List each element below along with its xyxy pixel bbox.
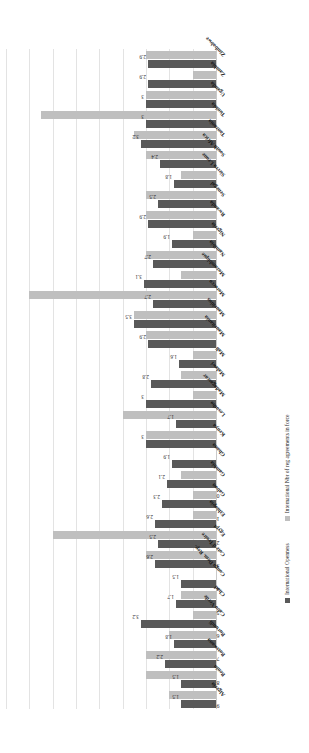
bar-openness [148,60,216,68]
bar-openness [148,80,216,88]
bar-value-label: 2.7 [144,254,151,260]
bar-value-label: 2.5 [149,194,156,200]
category-axis: AlgeriaBeninBotswanaBurundiCabo VerdeCha… [220,49,304,709]
bar-openness [146,120,216,128]
bar-openness [144,280,216,288]
bar-value-label: 3 [141,114,144,120]
bar-value-label: 1.7 [168,414,175,420]
bar-value-label: 3.2 [133,134,140,140]
legend-item: International Nbr of reg agreements in f… [284,414,290,521]
gridline [53,49,54,709]
bar-openness [181,700,216,708]
bar-value-label: 1.5 [172,674,179,680]
bar-agreements [146,91,216,99]
bar-value-label: 1.8 [165,634,172,640]
bar-value-label: 1.9 [163,234,170,240]
gridline [6,49,7,709]
bar-value-label: 2.7 [144,294,151,300]
bar-agreements [146,431,216,439]
legend-swatch-icon [285,516,290,521]
bar-value-label: 2.9 [140,214,147,220]
bar-value-label: 3 [141,94,144,100]
bar-agreements [193,351,216,359]
bar-agreements [193,611,216,619]
gridline [76,49,77,709]
bar-openness [181,580,216,588]
bar-value-label: 2.8 [142,374,149,380]
bar-value-label: 3 [141,434,144,440]
bar-agreements [193,71,216,79]
bar-agreements [181,171,216,179]
bar-agreements [29,291,216,299]
bar-value-label: 2.9 [140,334,147,340]
legend-item: International Openness [284,543,290,603]
bar-value-label: 2.1 [158,474,165,480]
bar-value-label: 1.9 [163,454,170,460]
plot-area: 1.51.52.21.83.21.71.52.62.52.62.32.11.93… [6,49,216,709]
bar-value-label: 3 [141,394,144,400]
legend-label: International Openness [284,543,290,595]
bar-agreements [146,211,216,219]
bar-openness [155,520,216,528]
bar-openness [146,400,216,408]
bar-agreements [193,491,216,499]
bar-value-label: 2.5 [149,534,156,540]
chart-legend: International OpennessInternational Nbr … [284,414,290,603]
bar-value-label: 2.9 [140,74,147,80]
chart-figure: 1.51.52.21.83.21.71.52.62.52.62.32.11.93… [0,0,309,753]
bar-value-label: 2.6 [147,514,154,520]
bar-agreements [193,511,216,519]
bar-value-label: 1.6 [170,354,177,360]
bar-value-label: 2.4 [151,154,158,160]
bar-value-label: 1.5 [172,694,179,700]
bar-agreements [181,471,216,479]
bar-value-label: 2.2 [156,654,163,660]
bar-value-label: 2.6 [147,554,154,560]
bar-value-label: 3.1 [135,274,142,280]
bar-value-label: 3.2 [133,614,140,620]
bar-agreements [146,191,216,199]
legend-label: International Nbr of reg agreements in f… [284,414,290,513]
bar-agreements [41,111,216,119]
gridline [29,49,30,709]
bar-agreements [193,391,216,399]
bar-openness [146,440,216,448]
gridline [123,49,124,709]
legend-swatch-icon [285,598,290,603]
bar-openness [167,480,216,488]
bar-openness [148,340,216,348]
bar-agreements [146,671,216,679]
gridline [99,49,100,709]
bar-agreements [146,331,216,339]
bar-value-label: 2.3 [154,494,161,500]
bar-value-label: 2.9 [140,54,147,60]
bar-value-label: 1.5 [172,574,179,580]
bar-openness [146,100,216,108]
bar-openness [134,320,216,328]
bar-value-label: 3.5 [126,314,133,320]
bar-openness [141,620,216,628]
bar-openness [165,660,216,668]
bar-value-label: 1.7 [168,594,175,600]
bar-agreements [146,51,216,59]
bar-agreements [53,531,216,539]
bar-value-label: 1.8 [165,174,172,180]
bar-agreements [193,231,216,239]
bar-openness [148,220,216,228]
